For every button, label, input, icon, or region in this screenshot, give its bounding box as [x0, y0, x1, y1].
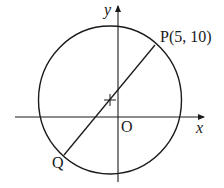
diagram-canvas: y x O P(5, 10) Q	[0, 0, 224, 188]
origin-label: O	[121, 119, 133, 135]
x-axis-label: x	[196, 120, 203, 136]
point-q-label: Q	[52, 155, 64, 171]
point-p-label: P(5, 10)	[160, 29, 212, 45]
y-axis-label: y	[104, 2, 111, 18]
